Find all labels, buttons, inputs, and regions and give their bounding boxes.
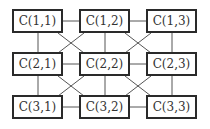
- node-label: C(2,2): [86, 57, 124, 71]
- node-c-3-2: C(3,2): [79, 95, 130, 119]
- node-c-1-3: C(1,3): [146, 9, 197, 33]
- node-c-3-3: C(3,3): [146, 95, 197, 119]
- node-label: C(2,3): [153, 57, 191, 71]
- node-label: C(3,1): [19, 100, 57, 114]
- node-label: C(3,2): [86, 100, 124, 114]
- node-c-2-3: C(2,3): [146, 52, 197, 76]
- node-c-2-1: C(2,1): [12, 52, 63, 76]
- node-c-1-2: C(1,2): [79, 9, 130, 33]
- node-label: C(2,1): [19, 57, 57, 71]
- node-label: C(1,2): [86, 14, 124, 28]
- node-c-1-1: C(1,1): [12, 9, 63, 33]
- node-label: C(1,3): [153, 14, 191, 28]
- node-label: C(3,3): [153, 100, 191, 114]
- node-c-2-2: C(2,2): [79, 52, 130, 76]
- node-c-3-1: C(3,1): [12, 95, 63, 119]
- node-label: C(1,1): [19, 14, 57, 28]
